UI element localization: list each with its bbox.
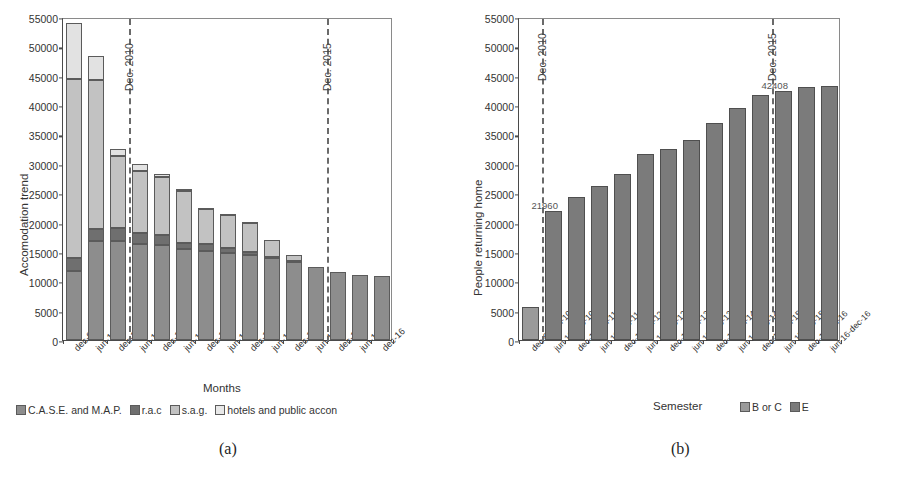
legend-swatch-icon bbox=[130, 405, 140, 415]
legend-item-a[interactable]: r.a.c bbox=[130, 404, 162, 416]
bar-segment bbox=[176, 249, 192, 340]
x-axis-label-b: Semester bbox=[653, 400, 702, 412]
legend-label: E bbox=[802, 401, 809, 413]
y-tick-mark bbox=[515, 165, 519, 166]
bar-segment bbox=[242, 223, 258, 252]
y-tick-mark bbox=[59, 253, 63, 254]
bar-stack-a bbox=[286, 255, 302, 340]
x-tick-mark bbox=[703, 340, 704, 344]
legend-item-a[interactable]: s.a.g. bbox=[170, 404, 208, 416]
bar-segment bbox=[110, 149, 126, 156]
bar-segment bbox=[374, 276, 390, 340]
bar-b bbox=[752, 95, 769, 340]
bar-segment bbox=[198, 209, 214, 244]
plot-area-a: 0500010000150002000025000300003500040000… bbox=[62, 18, 392, 341]
y-tick-mark bbox=[515, 77, 519, 78]
legend-item-b[interactable]: E bbox=[790, 401, 809, 413]
legend-b: B or CE bbox=[740, 401, 817, 413]
bar-segment bbox=[286, 261, 302, 263]
bar-segment bbox=[154, 177, 170, 236]
x-tick-mark bbox=[726, 340, 727, 344]
bar-segment bbox=[110, 241, 126, 340]
x-tick-mark bbox=[657, 340, 658, 344]
bar-b bbox=[775, 91, 792, 340]
bar-b bbox=[568, 197, 585, 340]
bar-segment bbox=[110, 228, 126, 241]
y-axis-label-b: People returning home bbox=[472, 179, 484, 295]
bar-segment bbox=[132, 244, 148, 340]
legend-item-a[interactable]: C.A.S.E. and M.A.P. bbox=[16, 404, 122, 416]
y-tick-label: 50000 bbox=[485, 42, 519, 54]
bar-stack-a bbox=[198, 208, 214, 340]
bar-b bbox=[522, 307, 539, 340]
bar-stack-a bbox=[242, 222, 258, 340]
x-tick-mark bbox=[107, 340, 108, 344]
bar-b bbox=[798, 87, 815, 340]
bar-segment bbox=[66, 23, 82, 79]
legend-label: B or C bbox=[752, 401, 782, 413]
bar-b bbox=[821, 86, 838, 340]
x-axis-label-a: Months bbox=[203, 382, 241, 394]
reference-line-label: Dec. 2015 bbox=[766, 33, 778, 81]
bar-b bbox=[683, 140, 700, 340]
bar-b bbox=[660, 149, 677, 340]
legend-swatch-icon bbox=[16, 405, 26, 415]
reference-line-label: Dec. 2015 bbox=[321, 43, 333, 91]
legend-swatch-icon bbox=[215, 405, 225, 415]
bar-segment bbox=[88, 56, 104, 80]
bar-segment bbox=[264, 240, 280, 258]
bar-segment bbox=[88, 229, 104, 241]
x-tick-mark bbox=[63, 340, 64, 344]
bar-segment bbox=[198, 251, 214, 340]
x-tick-mark bbox=[634, 340, 635, 344]
y-tick-label: 35000 bbox=[485, 130, 519, 142]
y-tick-mark bbox=[515, 195, 519, 196]
x-tick-mark bbox=[519, 340, 520, 344]
bar-stack-a bbox=[154, 174, 170, 340]
bar-segment bbox=[286, 255, 302, 261]
y-tick-label: 35000 bbox=[29, 130, 63, 142]
y-tick-label: 25000 bbox=[485, 189, 519, 201]
legend-item-a[interactable]: hotels and public accon bbox=[215, 404, 337, 416]
y-tick-label: 40000 bbox=[485, 101, 519, 113]
y-tick-label: 40000 bbox=[29, 101, 63, 113]
bar-segment bbox=[242, 222, 258, 224]
y-tick-label: 25000 bbox=[29, 189, 63, 201]
legend-item-b[interactable]: B or C bbox=[740, 401, 782, 413]
x-tick-mark bbox=[565, 340, 566, 344]
value-annotation: 21960 bbox=[532, 200, 558, 211]
bar-stack-a bbox=[176, 189, 192, 340]
bar-segment bbox=[264, 258, 280, 340]
bar-segment bbox=[242, 252, 258, 256]
bar-b bbox=[591, 186, 608, 340]
caption-a: (a) bbox=[219, 440, 237, 458]
caption-b: (b) bbox=[671, 440, 690, 458]
bar-b bbox=[706, 123, 723, 340]
bar-segment bbox=[176, 189, 192, 191]
bar-stack-a bbox=[330, 272, 346, 340]
y-tick-mark bbox=[59, 18, 63, 19]
y-tick-label: 15000 bbox=[485, 248, 519, 260]
bar-stack-a bbox=[352, 275, 368, 340]
x-tick-mark bbox=[283, 340, 284, 344]
bar-segment bbox=[66, 271, 82, 340]
bar-segment bbox=[264, 257, 280, 259]
bar-segment bbox=[66, 79, 82, 258]
bar-stack-a bbox=[66, 23, 82, 340]
y-tick-mark bbox=[515, 136, 519, 137]
x-tick-mark bbox=[173, 340, 174, 344]
bar-segment bbox=[154, 174, 170, 177]
y-tick-mark bbox=[515, 18, 519, 19]
bar-segment bbox=[88, 80, 104, 229]
bar-segment bbox=[220, 248, 236, 253]
bar-segment bbox=[220, 214, 236, 216]
x-tick-mark bbox=[393, 340, 394, 344]
bar-segment bbox=[88, 241, 104, 340]
legend-swatch-icon bbox=[790, 402, 800, 412]
bar-b bbox=[545, 211, 562, 340]
bar-b bbox=[614, 174, 631, 340]
y-tick-mark bbox=[59, 77, 63, 78]
y-tick-label: 45000 bbox=[29, 72, 63, 84]
x-tick-mark bbox=[85, 340, 86, 344]
bar-segment bbox=[220, 253, 236, 340]
